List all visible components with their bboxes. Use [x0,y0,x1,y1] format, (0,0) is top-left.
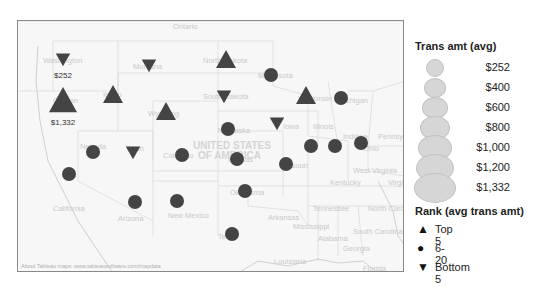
circle-icon: ● [417,241,424,255]
rank-legend-title: Rank (avg trans amt) [415,205,540,217]
marker-texas[interactable] [225,227,239,241]
marker-indiana[interactable] [328,139,342,153]
size-legend-item[interactable]: $252 [415,58,540,78]
size-legend-item[interactable]: $600 [415,98,540,118]
label-pennsylvania: Pennsylvania [378,132,404,141]
marker-value-label: $252 [54,71,72,80]
marker-missouri[interactable] [279,157,293,171]
label-california: California [53,204,86,213]
map-attribution[interactable]: About Tableau maps: www.tableausoftware.… [21,263,161,269]
marker-kansas[interactable] [230,152,244,166]
size-legend-item[interactable]: $1,332 [415,178,540,198]
label-alabama: Alabama [318,234,348,243]
triangle-up-icon: ▲ [417,222,429,236]
label-west-virginia: West Virginia [353,166,398,175]
label-arizona: Arizona [118,214,144,223]
label-louisiana: Louisiana [274,257,307,266]
rank-legend: Rank (avg trans amt) ▲Top 5●6-20▼Bottom … [415,205,540,285]
marker-illinois[interactable] [304,139,318,153]
label-illinois: Illinois [313,122,334,131]
label-mississippi: Mississippi [293,222,330,231]
label-arkansas: Arkansas [268,213,300,222]
size-legend-label: $600 [486,101,510,113]
size-swatch-icon [426,59,444,77]
size-legend-item[interactable]: $400 [415,78,540,98]
marker-michigan[interactable] [334,91,348,105]
size-swatch-icon [414,173,456,203]
label-florida: Florida [363,264,387,272]
country-label-line2: OF AMERICA [198,150,261,161]
label-south-carolina: South Carolina [353,227,403,236]
size-legend: Trans amt (avg) $252$400$600$800$1,000$1… [415,40,540,200]
label-virginia: Virginia [388,178,404,187]
label-kentucky: Kentucky [330,178,361,187]
size-legend-label: $1,200 [476,161,510,173]
size-legend-title: Trans amt (avg) [415,40,540,52]
label-ontario: Ontario [173,22,198,31]
label-north-carolina: North Carolina [368,204,404,213]
marker-new-mexico[interactable] [170,194,184,208]
marker-arizona[interactable] [128,195,142,209]
size-legend-label: $1,000 [476,141,510,153]
size-legend-label: $1,332 [476,181,510,193]
size-swatch-icon [424,78,446,98]
label-new-mexico: New Mexico [168,211,209,220]
marker-value-label: $1,332 [51,118,76,127]
marker-california[interactable] [62,167,76,181]
rank-legend-label: Bottom 5 [435,261,470,285]
label-tennessee: Tennessee [313,204,349,213]
map-canvas: Ontario Washington Oregon Idaho Montana … [18,21,404,272]
label-iowa: Iowa [283,122,300,131]
size-legend-label: $252 [486,61,510,73]
map-view[interactable]: Ontario Washington Oregon Idaho Montana … [17,20,404,272]
size-legend-label: $400 [486,81,510,93]
marker-colorado[interactable] [175,148,189,162]
marker-nebraska[interactable] [221,122,235,136]
triangle-down-icon: ▼ [417,260,429,274]
marker-nevada[interactable] [86,145,100,159]
label-georgia: Georgia [343,244,371,253]
marker-ohio[interactable] [354,136,368,150]
marker-minnesota[interactable] [264,68,278,82]
marker-oklahoma[interactable] [238,184,252,198]
size-legend-label: $800 [486,121,510,133]
